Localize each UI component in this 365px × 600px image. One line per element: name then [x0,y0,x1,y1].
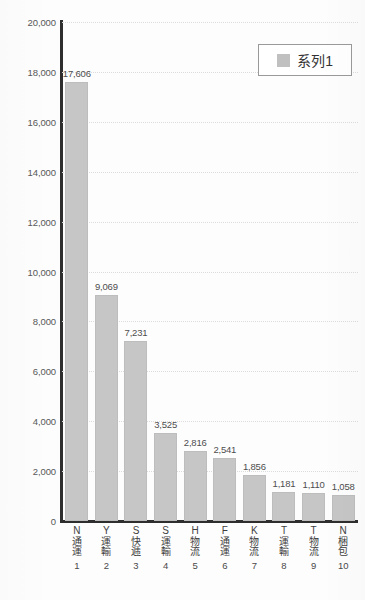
bar-slot: 2,541 [210,22,240,521]
y-axis-tick-label: 0 [0,516,56,527]
bar-value-label: 1,058 [332,481,355,492]
bar-value-label: 2,541 [213,444,236,455]
y-axis-tick-label: 6,000 [0,366,56,377]
bar-slot: 9,069 [92,22,122,521]
category-name: 運輸 [151,537,181,558]
y-axis-tick-label: 12,000 [0,216,56,227]
category-code: T [269,526,299,537]
category-index: 6 [210,561,240,571]
bar-slot: 1,110 [299,22,329,521]
bar-value-label: 2,816 [184,437,207,448]
x-axis-category-label: Y運輸2 [92,526,122,571]
category-name: 物流 [180,537,210,558]
bar [332,495,355,521]
x-axis-category-label: S運輸4 [151,526,181,571]
category-index: 9 [299,561,329,571]
category-code: Y [92,526,122,537]
category-index: 8 [269,561,299,571]
chart-legend: 系列1 [258,44,352,76]
bar [243,475,266,521]
category-code: T [299,526,329,537]
category-name: 通運 [62,537,92,558]
bar [272,492,295,521]
category-index: 4 [151,561,181,571]
bar-value-label: 1,110 [303,479,325,490]
y-axis-tick-label: 20,000 [0,17,56,28]
category-code: H [180,526,210,537]
legend-label: 系列1 [297,50,333,70]
bar-value-label: 17,606 [63,68,91,79]
bar [124,341,147,521]
category-code: K [240,526,270,537]
bar-value-label: 7,231 [125,327,148,338]
category-code: N [62,526,92,537]
category-index: 7 [240,561,270,571]
x-axis-category-label: T物流9 [299,526,329,571]
bar-value-label: 1,181 [273,478,296,489]
bar [154,433,177,521]
bar-chart-figure: 17,6069,0697,2313,5252,8162,5411,8561,18… [0,0,365,600]
category-index: 3 [121,561,151,571]
bar-value-label: 3,525 [154,419,177,430]
bar [213,458,236,521]
category-name: 快逓 [121,537,151,558]
x-axis-category-label: N梱包10 [328,526,358,571]
bar-slot: 1,856 [240,22,270,521]
plot-area: 17,6069,0697,2313,5252,8162,5411,8561,18… [62,22,358,521]
x-axis-category-label: N通運1 [62,526,92,571]
y-axis-tick-label: 2,000 [0,466,56,477]
category-name: 物流 [299,537,329,558]
bar [184,451,207,521]
bar [302,493,325,521]
category-index: 10 [328,561,358,571]
bar-slot: 1,058 [328,22,358,521]
bar-slot: 1,181 [269,22,299,521]
y-axis-tick-label: 8,000 [0,316,56,327]
category-code: S [151,526,181,537]
category-code: F [210,526,240,537]
bar [65,82,88,521]
bar-slot: 2,816 [180,22,210,521]
category-code: S [121,526,151,537]
bar-slot: 17,606 [62,22,92,521]
bar-value-label: 1,856 [243,461,266,472]
x-axis-category-label: K物流7 [240,526,270,571]
category-name: 物流 [240,537,270,558]
bar-slot: 7,231 [121,22,151,521]
bar-slot: 3,525 [151,22,181,521]
legend-swatch-icon [277,54,290,67]
category-name: 運輸 [92,537,122,558]
bar-value-label: 9,069 [95,281,118,292]
y-axis-tick-label: 14,000 [0,166,56,177]
y-axis-tick-label: 4,000 [0,416,56,427]
x-axis-category-label: H物流5 [180,526,210,571]
x-axis-category-label: S快逓3 [121,526,151,571]
y-axis-tick-label: 18,000 [0,66,56,77]
category-index: 5 [180,561,210,571]
category-code: N [328,526,358,537]
bar [95,295,118,521]
x-axis-category-label: T運輸8 [269,526,299,571]
category-name: 通運 [210,537,240,558]
category-index: 2 [92,561,122,571]
category-name: 梱包 [328,537,358,558]
category-name: 運輸 [269,537,299,558]
y-axis-tick-label: 10,000 [0,266,56,277]
y-axis-tick-label: 16,000 [0,116,56,127]
category-index: 1 [62,561,92,571]
x-axis-category-label: F通運6 [210,526,240,571]
